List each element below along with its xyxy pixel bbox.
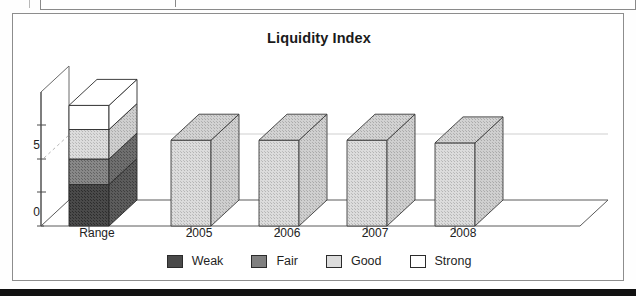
page-footer-rule <box>0 289 636 296</box>
y-axis-3d <box>41 66 69 226</box>
chart-container: Liquidity Index <box>12 13 624 281</box>
legend-item-weak: Weak <box>167 254 224 268</box>
x-axis-label-2005: 2005 <box>159 226 239 240</box>
screenshot-root: Liquidity Index <box>0 0 636 300</box>
bar-range-stacked <box>69 79 137 226</box>
bar-2006 <box>259 114 327 226</box>
legend-swatch-good <box>326 255 342 268</box>
row-header-stub <box>0 0 30 8</box>
y-tick-label-5: 5 <box>18 138 40 152</box>
legend-label-fair: Fair <box>276 254 298 268</box>
legend-swatch-fair <box>251 255 267 268</box>
bar-2005 <box>171 114 239 226</box>
page-footer-gap <box>0 296 636 298</box>
legend-swatch-strong <box>410 255 426 268</box>
legend-label-good: Good <box>351 254 382 268</box>
bar-2008 <box>435 117 503 226</box>
x-axis-label-2006: 2006 <box>247 226 327 240</box>
document-top-chrome <box>0 0 636 12</box>
table-cell-border <box>40 0 636 10</box>
legend-item-good: Good <box>326 254 382 268</box>
x-axis-label-2007: 2007 <box>335 226 415 240</box>
legend-label-strong: Strong <box>435 254 472 268</box>
table-column-divider <box>175 0 176 7</box>
plot-area: 0 5 Range 2005 2006 2007 2008 Weak Fair <box>13 14 625 282</box>
legend-swatch-weak <box>167 255 183 268</box>
bar-2007 <box>347 114 415 226</box>
legend-item-fair: Fair <box>251 254 298 268</box>
legend-label-weak: Weak <box>192 254 224 268</box>
x-axis-label-range: Range <box>57 226 137 240</box>
chart-canvas <box>13 14 625 282</box>
legend-item-strong: Strong <box>410 254 472 268</box>
x-axis-label-2008: 2008 <box>423 226 503 240</box>
y-tick-label-0: 0 <box>18 205 40 219</box>
chart-legend: Weak Fair Good Strong <box>13 250 625 272</box>
